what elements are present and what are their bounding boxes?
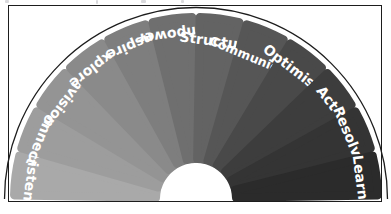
diagram-frame: [8, 5, 382, 202]
diagram-canvas: ListenConnectEnvisionExploreInspireEmpow…: [0, 0, 391, 214]
